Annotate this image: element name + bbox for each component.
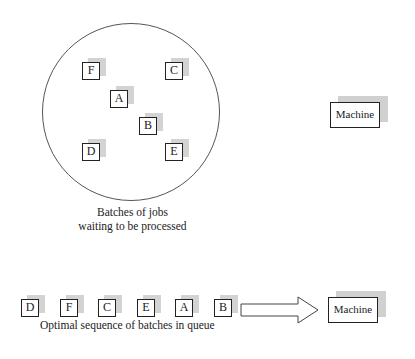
job-box: F bbox=[60, 299, 78, 317]
job-box: C bbox=[98, 299, 116, 317]
pool-job-c: C bbox=[165, 62, 183, 80]
job-box: D bbox=[21, 299, 39, 317]
pool-caption-line1: Batches of jobs bbox=[60, 205, 205, 219]
queue-job-1: D bbox=[21, 299, 39, 317]
machine-box: Machine bbox=[328, 297, 378, 323]
top-machine: Machine bbox=[330, 102, 380, 128]
machine-box: Machine bbox=[330, 102, 380, 128]
pool-job-f: F bbox=[82, 62, 100, 80]
pool-job-a: A bbox=[110, 90, 128, 108]
queue-job-3: C bbox=[98, 299, 116, 317]
queue-job-6: B bbox=[214, 299, 232, 317]
job-box: A bbox=[110, 90, 128, 108]
job-pool-circle bbox=[42, 23, 220, 201]
job-box: D bbox=[82, 143, 100, 161]
queue-job-2: F bbox=[60, 299, 78, 317]
job-box: E bbox=[137, 299, 155, 317]
pool-job-e: E bbox=[165, 143, 183, 161]
job-box: C bbox=[165, 62, 183, 80]
queue-job-4: E bbox=[137, 299, 155, 317]
pool-caption-line2: waiting to be processed bbox=[60, 219, 205, 233]
job-box: B bbox=[139, 117, 157, 135]
job-box: F bbox=[82, 62, 100, 80]
queue-caption: Optimal sequence of batches in queue bbox=[40, 318, 220, 332]
bottom-machine: Machine bbox=[328, 297, 378, 323]
queue-job-5: A bbox=[175, 299, 193, 317]
right-arrow-icon bbox=[240, 296, 320, 326]
pool-job-b: B bbox=[139, 117, 157, 135]
job-box: B bbox=[214, 299, 232, 317]
pool-caption: Batches of jobs waiting to be processed bbox=[60, 205, 205, 233]
pool-job-d: D bbox=[82, 143, 100, 161]
job-box: E bbox=[165, 143, 183, 161]
job-box: A bbox=[175, 299, 193, 317]
